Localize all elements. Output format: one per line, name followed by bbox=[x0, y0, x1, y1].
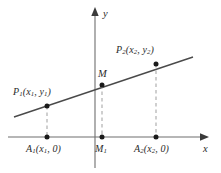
label-a1-close-paren: ) bbox=[58, 143, 61, 154]
label-x-axis-text: x bbox=[203, 143, 208, 154]
point-a2 bbox=[154, 135, 159, 140]
label-y-axis: y bbox=[103, 9, 108, 20]
x-axis-arrow-icon bbox=[200, 133, 209, 141]
point-m1 bbox=[100, 135, 105, 140]
label-m-base: M bbox=[98, 68, 107, 79]
label-a2: A2(x2, 0) bbox=[134, 144, 169, 155]
label-y-axis-text: y bbox=[103, 8, 108, 19]
x-axis bbox=[8, 133, 209, 141]
label-a2-close-paren: ) bbox=[166, 143, 169, 154]
label-p1-close-paren: ) bbox=[47, 86, 50, 97]
midpoint-diagram: P1(x1, y1) P2(x2, y2) M A1(x1, 0) M1 A2(… bbox=[0, 0, 221, 173]
label-x-axis: x bbox=[203, 144, 208, 155]
label-m1: M1 bbox=[95, 144, 107, 155]
point-a1 bbox=[45, 135, 50, 140]
y-axis-arrow-icon bbox=[91, 7, 98, 16]
label-a1: A1(x1, 0) bbox=[26, 144, 61, 155]
label-p2: P2(x2, y2) bbox=[116, 45, 154, 56]
point-p1 bbox=[45, 104, 50, 109]
label-m: M bbox=[98, 69, 107, 80]
label-m1-subscript: 1 bbox=[103, 147, 107, 154]
label-p2-close-paren: ) bbox=[150, 44, 153, 55]
point-m bbox=[100, 83, 105, 88]
label-p1: P1(x1, y1) bbox=[13, 87, 51, 98]
point-p2 bbox=[154, 62, 159, 67]
